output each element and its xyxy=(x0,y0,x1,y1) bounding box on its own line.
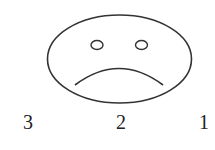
label-1: 1 xyxy=(199,112,209,132)
left-eye-icon xyxy=(91,41,103,50)
right-eye-icon xyxy=(136,41,148,50)
label-2: 2 xyxy=(116,112,126,132)
frown-mouth xyxy=(75,69,163,86)
label-3: 3 xyxy=(23,112,33,132)
face-outline xyxy=(48,15,192,103)
